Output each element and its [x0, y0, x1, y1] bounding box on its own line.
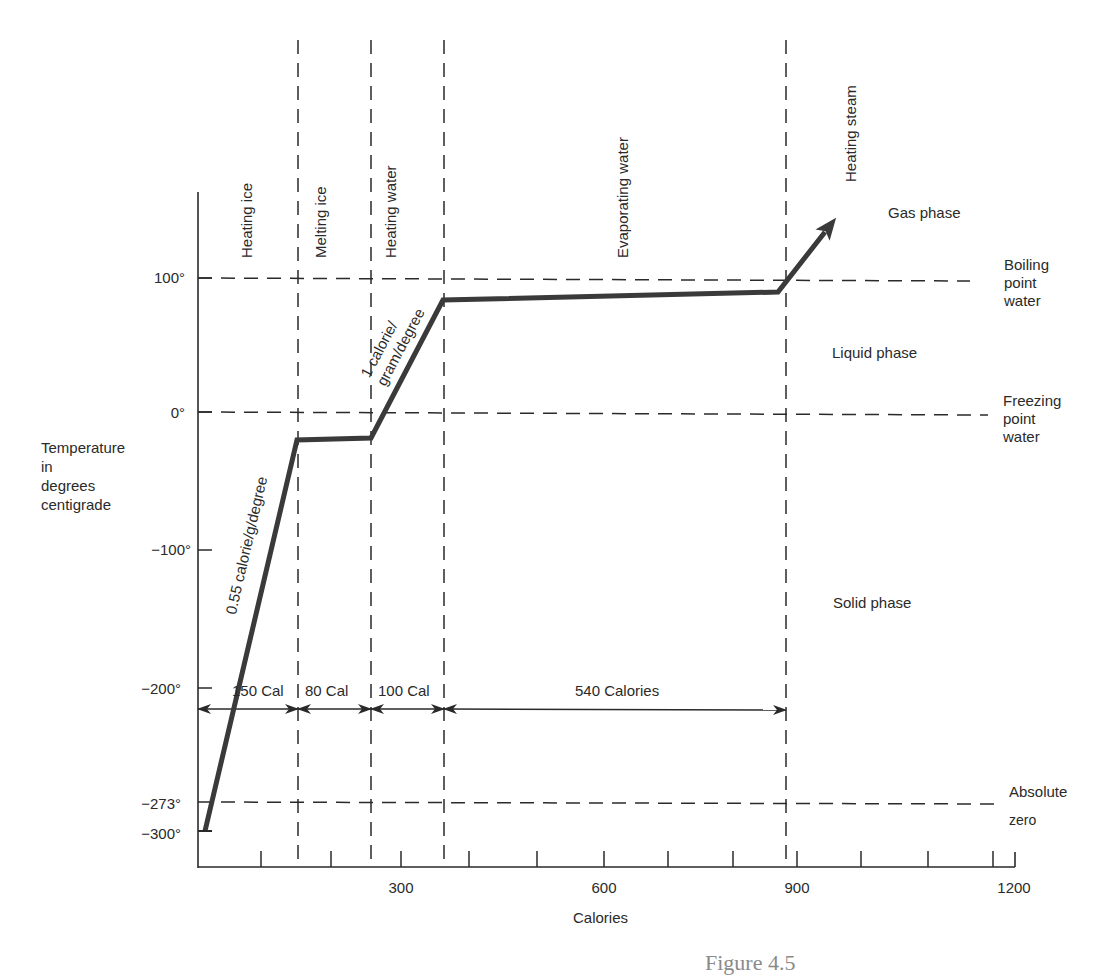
figure-caption: Figure 4.5 [705, 950, 795, 976]
x-tick-label-600: 600 [574, 879, 634, 896]
solid-phase-label: Solid phase [833, 594, 911, 611]
y-tick-label-m100: −100° [131, 541, 191, 558]
y-axis-title: Temperature in degrees centigrade [41, 438, 125, 514]
heating-curve [198, 232, 825, 831]
energy-arrows [198, 709, 786, 710]
stage-label-heating-steam: Heating steam [842, 85, 859, 182]
freezing-point-label: Freezing point water [1003, 392, 1061, 446]
interval-label-540: 540 Calories [575, 682, 659, 699]
axes [198, 192, 1015, 868]
liquid-phase-label: Liquid phase [832, 344, 917, 361]
y-tick-label-m200: −200° [121, 680, 181, 697]
x-tick-label-300: 300 [371, 879, 431, 896]
interval-label-100: 100 Cal [378, 682, 430, 699]
stage-label-evaporating-water: Evaporating water [614, 137, 631, 258]
x-axis-title: Calories [573, 909, 628, 926]
y-tick-label-m273: −273° [121, 795, 181, 812]
stage-label-heating-water: Heating water [382, 165, 399, 258]
x-tick-label-900: 900 [767, 879, 827, 896]
y-tick-label-m300: −300° [121, 825, 181, 842]
y-tick-label-0: 0° [125, 404, 185, 421]
stage-label-heating-ice: Heating ice [238, 183, 255, 258]
interval-label-80: 80 Cal [305, 682, 348, 699]
y-tick-label-100: 100° [125, 269, 185, 286]
reference-lines [198, 40, 1000, 867]
absolute-zero-label: Absolute [1009, 783, 1067, 800]
gas-phase-label: Gas phase [888, 204, 961, 221]
freezing-point-line [198, 412, 988, 415]
x-tick-label-1200: 1200 [984, 879, 1044, 896]
y-ticks [198, 278, 212, 831]
boiling-point-label: Boiling point water [1004, 256, 1049, 310]
stage-label-melting-ice: Melting ice [312, 186, 329, 258]
interval-label-150: 150 Cal [232, 682, 284, 699]
absolute-zero-line [198, 802, 1000, 804]
absolute-zero-label-2: zero [1009, 812, 1036, 829]
boiling-point-line [198, 278, 970, 281]
